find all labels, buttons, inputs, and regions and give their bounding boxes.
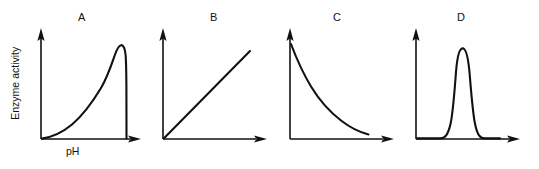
plot-canvas	[0, 0, 539, 169]
panel-a-plot	[37, 28, 141, 143]
panel-b-plot	[159, 28, 267, 143]
panel-label-d: D	[457, 12, 465, 23]
x-axis-label: pH	[66, 146, 79, 157]
y-axis-label: Enzyme activity	[10, 39, 21, 127]
panel-d-plot	[412, 28, 520, 143]
panel-d-curve	[417, 48, 500, 138]
panel-b-curve	[164, 51, 250, 138]
panel-label-a: A	[78, 12, 86, 23]
panel-c-curve	[291, 44, 369, 135]
enzyme-activity-figure: A B C D Enzyme activity pH	[0, 0, 539, 169]
panel-label-b: B	[210, 12, 218, 23]
panel-label-c: C	[333, 12, 341, 23]
panel-a-curve	[42, 45, 127, 138]
panel-c-plot	[286, 28, 394, 143]
